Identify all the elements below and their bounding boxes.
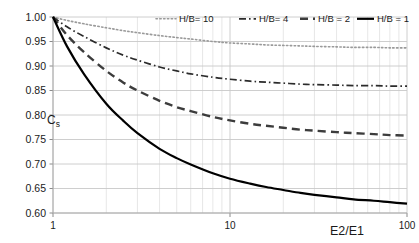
y-tick-label: 0.80 xyxy=(26,109,47,121)
x-tick-label: 1 xyxy=(50,220,56,231)
y-tick-label: 0.90 xyxy=(26,60,47,72)
y-tick-label: 1.00 xyxy=(26,11,47,23)
y-tick-label: 0.75 xyxy=(26,133,47,145)
x-axis-title: E2/E1 xyxy=(330,224,364,238)
chart-figure: 0.600.650.700.750.800.850.900.951.00 110… xyxy=(0,0,419,243)
chart-canvas: 0.600.650.700.750.800.850.900.951.00 110… xyxy=(0,0,419,243)
x-tick-label: 10 xyxy=(224,220,236,231)
y-axis-label-subscript: s xyxy=(56,119,60,129)
y-tick-label: 0.65 xyxy=(26,182,47,194)
legend-label-1: H/B= 4 xyxy=(259,13,288,24)
legend-label-2: H/B = 2 xyxy=(318,13,350,24)
y-tick-label: 0.95 xyxy=(26,35,47,47)
y-tick-labels: 0.600.650.700.750.800.850.900.951.00 xyxy=(26,11,47,219)
x-tick-label: 100 xyxy=(399,220,416,231)
legend-label-3: H/B = 1 xyxy=(377,13,409,24)
y-tick-label: 0.60 xyxy=(26,207,47,219)
y-tick-label: 0.70 xyxy=(26,158,47,170)
y-axis-label-base: C xyxy=(47,113,56,127)
legend-label-0: H/B= 10 xyxy=(179,13,214,24)
y-tick-label: 0.85 xyxy=(26,84,47,96)
